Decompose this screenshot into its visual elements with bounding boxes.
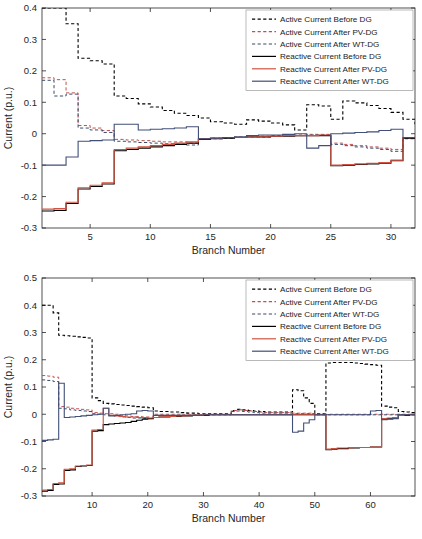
y-tick-label: 0.2 bbox=[24, 65, 37, 76]
x-tick-label: 20 bbox=[142, 499, 153, 510]
y-tick-label: -0.1 bbox=[21, 160, 37, 171]
series-line-5 bbox=[42, 383, 415, 440]
y-tick-label: 0.5 bbox=[24, 272, 37, 283]
series-line-2 bbox=[42, 380, 415, 419]
chart-svg-top: -0.3-0.2-0.100.10.20.30.451015202530Bran… bbox=[0, 0, 422, 270]
legend-label-5: Reactive Current After WT-DG bbox=[280, 347, 389, 356]
legend-label-1: Active Current After PV-DG bbox=[280, 28, 378, 37]
legend-label-0: Active Current Before DG bbox=[280, 285, 372, 294]
x-tick-label: 60 bbox=[365, 499, 376, 510]
x-axis-title: Branch Number bbox=[192, 512, 266, 524]
figure-root: -0.3-0.2-0.100.10.20.30.451015202530Bran… bbox=[0, 0, 422, 539]
y-tick-label: 0.2 bbox=[24, 354, 37, 365]
y-tick-label: 0.3 bbox=[24, 34, 37, 45]
y-tick-label: 0 bbox=[32, 128, 37, 139]
x-tick-label: 30 bbox=[386, 231, 397, 242]
x-tick-label: 15 bbox=[205, 231, 216, 242]
x-tick-label: 20 bbox=[265, 231, 276, 242]
x-axis-title: Branch Number bbox=[192, 244, 266, 256]
x-tick-label: 50 bbox=[310, 499, 321, 510]
x-tick-label: 5 bbox=[87, 231, 92, 242]
legend-label-4: Reactive Current After PV-DG bbox=[280, 65, 387, 74]
y-axis-title: Current (p.u.) bbox=[2, 356, 14, 418]
x-tick-label: 10 bbox=[145, 231, 156, 242]
x-tick-label: 25 bbox=[325, 231, 336, 242]
x-tick-label: 10 bbox=[87, 499, 98, 510]
legend-label-1: Active Current After PV-DG bbox=[280, 298, 378, 307]
y-tick-label: 0.1 bbox=[24, 97, 37, 108]
series-line-4 bbox=[42, 408, 415, 490]
y-tick-label: 0.3 bbox=[24, 327, 37, 338]
legend-label-2: Active Current After WT-DG bbox=[280, 310, 379, 319]
y-tick-label: 0.4 bbox=[24, 300, 37, 311]
x-tick-label: 40 bbox=[254, 499, 265, 510]
series-line-1 bbox=[42, 376, 415, 417]
series-line-4 bbox=[42, 135, 415, 209]
y-axis-title: Current (p.u.) bbox=[2, 87, 14, 149]
y-tick-label: 0.4 bbox=[24, 2, 37, 13]
chart-svg-bottom: -0.3-0.2-0.100.10.20.30.40.5102030405060… bbox=[0, 270, 422, 539]
y-tick-label: 0 bbox=[32, 409, 37, 420]
x-tick-label: 30 bbox=[198, 499, 209, 510]
legend-label-3: Reactive Current Before DG bbox=[280, 52, 381, 61]
y-tick-label: -0.2 bbox=[21, 191, 37, 202]
chart-panel-top: -0.3-0.2-0.100.10.20.30.451015202530Bran… bbox=[0, 0, 422, 270]
y-tick-label: 0.1 bbox=[24, 381, 37, 392]
legend-label-5: Reactive Current After WT-DG bbox=[280, 77, 389, 86]
y-tick-label: -0.2 bbox=[21, 463, 37, 474]
series-line-3 bbox=[42, 415, 415, 491]
legend-label-2: Active Current After WT-DG bbox=[280, 40, 379, 49]
y-tick-label: -0.1 bbox=[21, 436, 37, 447]
series-line-3 bbox=[42, 136, 415, 211]
y-tick-label: -0.3 bbox=[21, 222, 37, 233]
legend-label-4: Reactive Current After PV-DG bbox=[280, 335, 387, 344]
chart-panel-bottom: -0.3-0.2-0.100.10.20.30.40.5102030405060… bbox=[0, 270, 422, 539]
legend-label-3: Reactive Current Before DG bbox=[280, 322, 381, 331]
y-tick-label: -0.3 bbox=[21, 490, 37, 501]
legend-label-0: Active Current Before DG bbox=[280, 15, 372, 24]
